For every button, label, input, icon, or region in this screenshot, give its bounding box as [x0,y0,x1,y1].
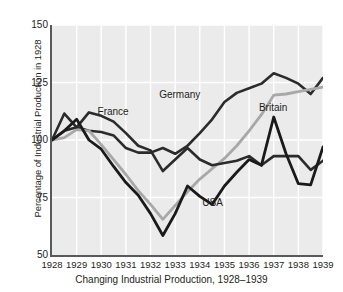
series-label-britain: Britain [259,102,287,113]
y-tick-label: 75 [37,193,48,203]
plot-area [52,25,323,255]
y-tick-label: 125 [31,78,48,88]
y-axis-line [50,25,52,256]
chart-caption: Changing Industrial Production, 1928–193… [0,274,343,285]
plot-svg [52,25,323,255]
y-tick-label: 100 [31,135,48,145]
series-label-usa: USA [202,197,223,208]
chart-figure: Percentage of Industrial Production in 1… [0,0,343,292]
x-axis-ticks: 1928192919301931193219331934193519361937… [0,259,343,273]
y-tick-label: 150 [31,20,48,30]
x-axis-line [50,255,323,257]
y-axis-ticks: 1501251007550 [16,0,48,292]
series-label-france: France [98,106,129,117]
x-tick-label: 1939 [308,259,338,271]
series-label-germany: Germany [159,89,200,100]
